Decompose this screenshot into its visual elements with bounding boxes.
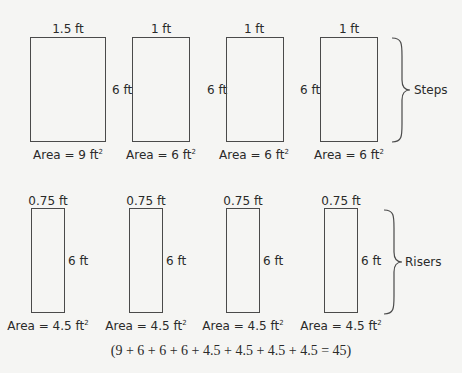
step-1-rectangle: [30, 37, 106, 142]
step-3-area-label: Area = 6 ft2: [219, 145, 289, 162]
step-4-width-label: 1 ft: [339, 22, 359, 36]
step-2-width-label: 1 ft: [151, 22, 171, 36]
steps-group-label: Steps: [414, 83, 448, 97]
riser-4-width-label: 0.75 ft: [321, 194, 360, 208]
step-3-rectangle: [226, 37, 284, 142]
riser-2-area-label: Area = 4.5 ft2: [105, 316, 186, 333]
riser-1-height-label: 6 ft: [68, 254, 88, 268]
riser-4-rectangle: [324, 208, 358, 313]
step-4-area-label: Area = 6 ft2: [314, 145, 384, 162]
total-area-formula: (9 + 6 + 6 + 6 + 4.5 + 4.5 + 4.5 + 4.5 =…: [0, 343, 462, 359]
step-2-rectangle: [132, 37, 190, 142]
riser-1-area-label: Area = 4.5 ft2: [7, 316, 88, 333]
riser-3-rectangle: [226, 208, 260, 313]
riser-3-height-label: 6 ft: [263, 254, 283, 268]
riser-2-height-label: 6 ft: [166, 254, 186, 268]
risers-brace-icon: [382, 208, 406, 316]
riser-1-rectangle: [31, 208, 65, 313]
riser-2-rectangle: [129, 208, 163, 313]
riser-4-area-label: Area = 4.5 ft2: [300, 316, 381, 333]
riser-3-width-label: 0.75 ft: [223, 194, 262, 208]
step-1-area-label: Area = 9 ft2: [33, 145, 103, 162]
step-4-rectangle: [320, 37, 378, 142]
step-2-area-label: Area = 6 ft2: [126, 145, 196, 162]
step-3-height-label: 6 ft: [207, 83, 227, 97]
steps-brace-icon: [390, 36, 414, 144]
riser-3-area-label: Area = 4.5 ft2: [202, 316, 283, 333]
riser-4-height-label: 6 ft: [361, 254, 381, 268]
step-4-height-label: 6 ft: [300, 83, 320, 97]
step-1-width-label: 1.5 ft: [52, 22, 84, 36]
step-3-width-label: 1 ft: [244, 22, 264, 36]
riser-2-width-label: 0.75 ft: [126, 194, 165, 208]
risers-group-label: Risers: [405, 255, 442, 269]
step-2-height-label: 6 ft: [112, 83, 132, 97]
riser-1-width-label: 0.75 ft: [28, 194, 67, 208]
